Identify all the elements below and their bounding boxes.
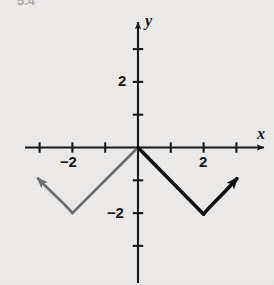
left-branch-curved-arm — [38, 179, 72, 214]
right-branch-straight-segment — [138, 148, 204, 215]
figure-canvas: 5.4 — [0, 0, 274, 285]
left-branch-straight-segment — [72, 148, 138, 214]
x-tick-label-2: 2 — [199, 153, 207, 170]
x-axis-label: x — [257, 125, 265, 143]
x-tick-label--2: −2 — [60, 153, 77, 170]
right-branch-curved-arm — [204, 179, 237, 215]
y-tick-label-2: 2 — [118, 72, 126, 89]
coordinate-plot — [0, 0, 274, 285]
y-axis-label: y — [145, 12, 152, 30]
y-tick-label--2: −2 — [107, 204, 124, 221]
right-branch-curve — [138, 148, 237, 215]
